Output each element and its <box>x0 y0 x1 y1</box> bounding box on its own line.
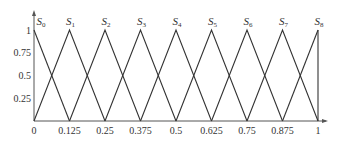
membership-function-chart: 00.1250.250.3750.50.6250.750.87510.250.5… <box>0 0 340 145</box>
x-tick-label: 0.125 <box>58 125 81 136</box>
x-tick-label: 0 <box>32 125 37 136</box>
series-s1 <box>34 30 105 121</box>
series-s5 <box>176 30 247 121</box>
x-tick-label: 0.25 <box>96 125 114 136</box>
series-lines <box>34 30 318 121</box>
y-tick-label: 0.75 <box>14 47 32 58</box>
x-axis-arrow-icon <box>322 119 328 123</box>
x-tick-label: 1 <box>316 125 321 136</box>
y-tick-label: 0.5 <box>19 70 32 81</box>
series-label-s4: S4 <box>173 15 183 29</box>
labels: 00.1250.250.3750.50.6250.750.87510.250.5… <box>14 15 325 136</box>
series-label-s0: S0 <box>37 15 47 29</box>
x-tick-label: 0.75 <box>238 125 256 136</box>
series-label-s7: S7 <box>279 15 289 29</box>
y-tick-label: 0.25 <box>14 93 32 104</box>
series-label-s6: S6 <box>244 15 254 29</box>
x-tick-label: 0.375 <box>129 125 152 136</box>
y-tick-label: 1 <box>26 25 31 36</box>
series-s2 <box>70 30 141 121</box>
x-tick-label: 0.875 <box>271 125 294 136</box>
series-label-s8: S8 <box>315 15 325 29</box>
series-s6 <box>212 30 283 121</box>
series-label-s2: S2 <box>102 15 112 29</box>
series-s4 <box>141 30 212 121</box>
x-tick-label: 0.5 <box>170 125 183 136</box>
series-label-s5: S5 <box>208 15 218 29</box>
series-s7 <box>247 30 318 121</box>
series-label-s1: S1 <box>66 15 76 29</box>
y-axis-arrow-icon <box>32 10 36 16</box>
series-s3 <box>105 30 176 121</box>
x-tick-label: 0.625 <box>200 125 223 136</box>
series-label-s3: S3 <box>137 15 147 29</box>
